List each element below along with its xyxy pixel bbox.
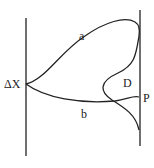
curve-d (103, 36, 139, 130)
label-b: b (81, 107, 87, 121)
label-d: D (123, 76, 132, 90)
label-delta-x: ΔX (4, 77, 21, 91)
diagram-canvas: ΔX a b D P (0, 0, 154, 168)
label-a: a (79, 29, 85, 43)
label-p: P (143, 91, 150, 105)
